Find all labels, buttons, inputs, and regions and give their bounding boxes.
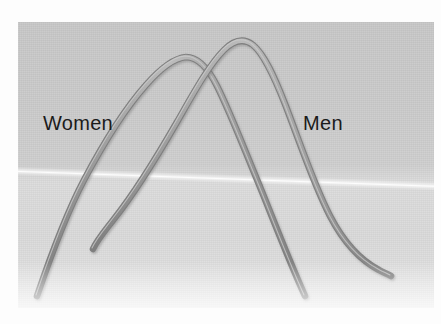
curve-women-highlight: [36, 56, 304, 295]
curve-men-core: [93, 41, 391, 276]
curve-women-core: [37, 57, 305, 296]
curve-women-outline: [37, 57, 305, 296]
photo-area: [18, 22, 434, 308]
figure-canvas: Women Men: [0, 0, 441, 324]
distribution-curves-group: [18, 22, 434, 308]
curve-women: [36, 56, 305, 296]
curve-label-women: Women: [43, 112, 113, 135]
curve-men: [92, 40, 391, 276]
curve-label-men: Men: [303, 112, 343, 135]
